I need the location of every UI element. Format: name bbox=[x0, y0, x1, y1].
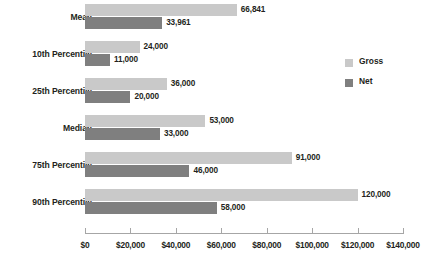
bar-gross-mean bbox=[85, 4, 237, 16]
x-axis-tick-label: $80,000 bbox=[252, 240, 281, 250]
category-label-median: Median bbox=[0, 123, 92, 133]
bar-value-net-mean: 33,961 bbox=[166, 18, 190, 27]
x-axis-tick-label: $0 bbox=[81, 240, 90, 250]
plot-area: Mean 66,841 33,961 10th Percentile 24,00… bbox=[0, 0, 433, 266]
bar-gross-75th-percentile bbox=[85, 152, 292, 164]
bar-chart: Mean 66,841 33,961 10th Percentile 24,00… bbox=[0, 0, 433, 266]
bar-value-net-90th-percentile: 58,000 bbox=[221, 203, 245, 212]
legend-swatch-gross-icon bbox=[345, 59, 353, 67]
bar-value-net-25th-percentile: 20,000 bbox=[134, 92, 158, 101]
bar-gross-10th-percentile bbox=[85, 41, 140, 53]
x-axis-tick bbox=[312, 228, 313, 234]
legend-swatch-net-icon bbox=[345, 79, 353, 87]
x-axis-tick bbox=[221, 228, 222, 234]
bar-value-gross-median: 53,000 bbox=[209, 116, 233, 125]
x-axis-tick-label: $60,000 bbox=[207, 240, 236, 250]
bar-net-10th-percentile bbox=[85, 54, 110, 66]
category-label-25th-percentile: 25th Percentile bbox=[0, 86, 92, 96]
bar-value-gross-75th-percentile: 91,000 bbox=[296, 153, 320, 162]
x-axis-tick bbox=[403, 228, 404, 234]
x-axis-tick-label: $40,000 bbox=[161, 240, 190, 250]
x-axis-line bbox=[85, 233, 403, 234]
x-axis-tick bbox=[267, 228, 268, 234]
bar-gross-median bbox=[85, 115, 205, 127]
legend-label-net: Net bbox=[359, 76, 373, 86]
x-axis-tick bbox=[176, 228, 177, 234]
x-axis-tick bbox=[358, 228, 359, 234]
bar-net-75th-percentile bbox=[85, 165, 189, 177]
category-label-75th-percentile: 75th Percentile bbox=[0, 160, 92, 170]
legend-label-gross: Gross bbox=[359, 56, 383, 66]
category-label-10th-percentile: 10th Percentile bbox=[0, 49, 92, 59]
bar-gross-25th-percentile bbox=[85, 78, 167, 90]
category-label-90th-percentile: 90th Percentile bbox=[0, 197, 92, 207]
bar-value-gross-25th-percentile: 36,000 bbox=[171, 79, 195, 88]
bar-value-gross-mean: 66,841 bbox=[241, 5, 265, 14]
x-axis-tick bbox=[85, 228, 86, 234]
bar-net-mean bbox=[85, 17, 162, 29]
x-axis-tick-label: $20,000 bbox=[116, 240, 145, 250]
x-axis-tick-label: $120,000 bbox=[341, 240, 374, 250]
bar-value-gross-10th-percentile: 24,000 bbox=[144, 42, 168, 51]
bar-value-net-10th-percentile: 11,000 bbox=[114, 55, 138, 64]
x-axis-tick-label: $140,000 bbox=[386, 240, 419, 250]
x-axis-tick-label: $100,000 bbox=[295, 240, 328, 250]
bar-value-gross-90th-percentile: 120,000 bbox=[362, 190, 391, 199]
bar-net-median bbox=[85, 128, 160, 140]
bar-value-net-median: 33,000 bbox=[164, 129, 188, 138]
x-axis-tick bbox=[130, 228, 131, 234]
bar-net-25th-percentile bbox=[85, 91, 130, 103]
bar-net-90th-percentile bbox=[85, 202, 217, 214]
category-label-mean: Mean bbox=[0, 12, 92, 22]
bar-gross-90th-percentile bbox=[85, 189, 358, 201]
bar-value-net-75th-percentile: 46,000 bbox=[193, 166, 217, 175]
